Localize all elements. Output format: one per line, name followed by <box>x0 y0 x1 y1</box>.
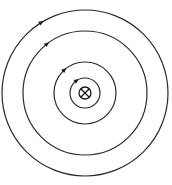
magnetic-field-diagram <box>0 0 172 185</box>
diagram-description: magnetic-field-around-straight-wire <box>0 184 15 185</box>
field-direction-arrows <box>38 21 79 84</box>
wire-into-page-icon <box>79 87 91 99</box>
